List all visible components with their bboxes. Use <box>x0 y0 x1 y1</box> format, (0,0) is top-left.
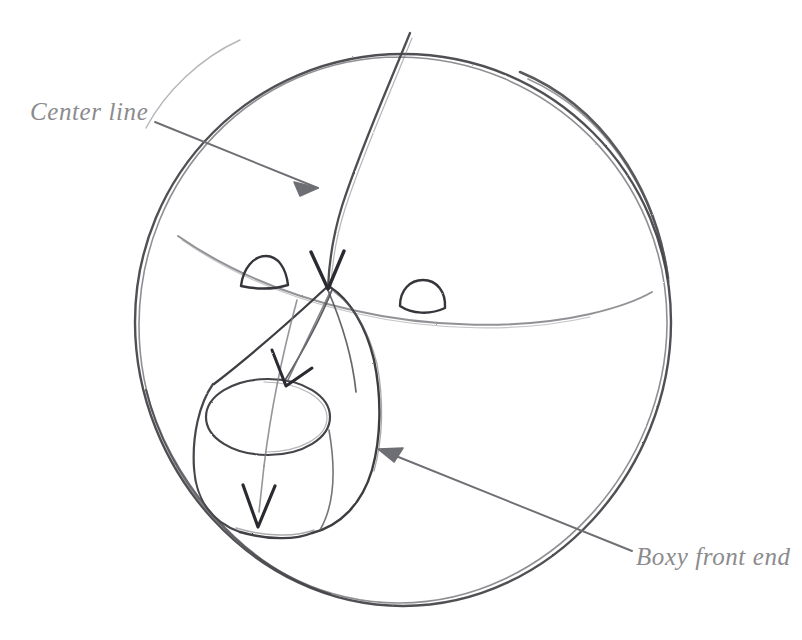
annotation-label-boxy-front-end: Boxy front end <box>636 543 791 571</box>
head-sphere-outline <box>135 40 671 606</box>
muzzle-guide-arrow <box>272 292 330 386</box>
nose-circle <box>206 379 330 455</box>
muzzle-boxy-form <box>194 287 382 538</box>
muzzle-vertical-guide <box>243 300 297 527</box>
right-eye-shape <box>400 280 445 313</box>
center-line-annotation-arrow <box>155 122 318 196</box>
head-center-line <box>328 33 412 288</box>
annotation-label-center-line: Center line <box>30 98 148 126</box>
sketch-canvas: Center line Boxy front end <box>0 0 802 640</box>
boxy-front-end-annotation-arrow <box>378 448 632 551</box>
